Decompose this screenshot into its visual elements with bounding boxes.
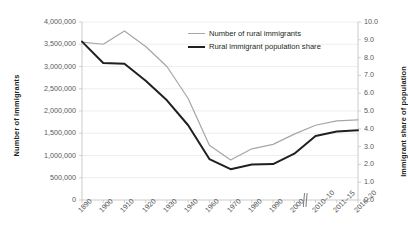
- y-tick-label-left: 500,000: [24, 173, 76, 182]
- y-tick-label-right: 6.0: [364, 88, 404, 97]
- y-tick-label-right: 7.0: [364, 70, 404, 79]
- y-tick-label-right: 1.0: [364, 177, 404, 186]
- legend-swatch: [188, 33, 205, 34]
- legend-swatch: [188, 46, 205, 48]
- y-tick-label-right: 8.0: [364, 53, 404, 62]
- y-tick-label-right: 9.0: [364, 35, 404, 44]
- y-tick-label-left: 3,500,000: [24, 39, 76, 48]
- y-tick-label-right: 2.0: [364, 159, 404, 168]
- y-tick-label-left: 1,500,000: [24, 128, 76, 137]
- y-tick-label-left: 2,000,000: [24, 106, 76, 115]
- y-tick-label-left: 4,000,000: [24, 17, 76, 26]
- y-tick-label-right: 4.0: [364, 124, 404, 133]
- y-tick-label-right: 5.0: [364, 106, 404, 115]
- y-tick-label-right: 10.0: [364, 17, 404, 26]
- legend-label: Number of rural immigrants: [209, 29, 301, 38]
- series-line: [82, 42, 358, 170]
- y-tick-label-left: 3,000,000: [24, 62, 76, 71]
- axis-break-marker: [306, 193, 307, 207]
- y-tick-label-right: 3.0: [364, 142, 404, 151]
- legend-label: Rural immigrant population share: [209, 42, 321, 51]
- y-tick-label-left: 0: [24, 195, 76, 204]
- y-tick-label-left: 2,500,000: [24, 84, 76, 93]
- y-tick-label-left: 1,000,000: [24, 151, 76, 160]
